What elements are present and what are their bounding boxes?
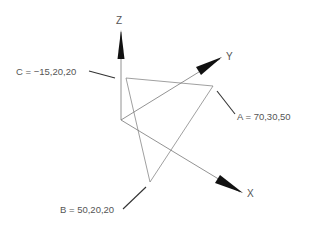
point-c-label: C = −15,20,20 bbox=[16, 67, 76, 77]
axes bbox=[118, 30, 244, 193]
z-arrowhead-icon bbox=[118, 30, 125, 59]
coordinate-diagram: Z Y X C = −15,20,20 A = 70,30,50 B = 50,… bbox=[0, 0, 311, 243]
y-axis-label: Y bbox=[226, 52, 233, 62]
leader-line-b bbox=[123, 187, 146, 209]
triangle-outline bbox=[126, 78, 213, 182]
leader-lines bbox=[89, 71, 235, 209]
y-arrowhead-icon bbox=[196, 57, 222, 75]
point-b-label: B = 50,20,20 bbox=[60, 205, 114, 215]
x-axis-label: X bbox=[247, 189, 254, 199]
x-arrowhead-icon bbox=[215, 175, 243, 193]
triangle-abc bbox=[126, 78, 213, 182]
z-axis-label: Z bbox=[116, 16, 122, 26]
leader-line-a bbox=[217, 91, 235, 114]
leader-line-c bbox=[89, 71, 115, 78]
point-a-label: A = 70,30,50 bbox=[237, 112, 291, 122]
